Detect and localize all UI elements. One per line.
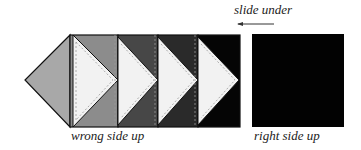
left-diamond-triangle — [25, 35, 70, 127]
wrong-side-up-label: wrong side up — [71, 128, 144, 144]
right-square — [252, 34, 344, 127]
slide-under-label: slide under — [234, 2, 292, 18]
left-arrow-icon — [237, 22, 274, 26]
right-side-up-label: right side up — [254, 128, 320, 144]
